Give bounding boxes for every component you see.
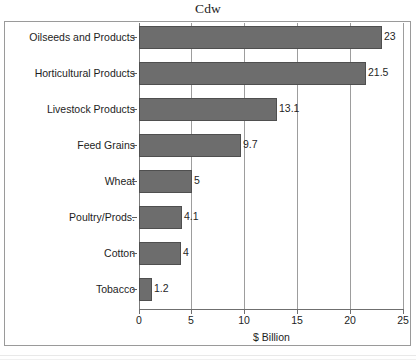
category-label-livestock-products: Livestock Products: [47, 103, 135, 115]
x-tick-label-15: 15: [282, 314, 312, 326]
category-tick-2: [132, 109, 137, 110]
bar-livestock-products[interactable]: [139, 98, 277, 121]
bar-value-label: 1.2: [154, 282, 169, 294]
bar-value-label: 9.7: [243, 138, 258, 150]
category-label-horticultural-products: Horticultural Products: [35, 67, 135, 79]
bar-oilseeds-and-products[interactable]: [139, 26, 382, 49]
category-tick-7: [132, 289, 137, 290]
category-label-feed-grains: Feed Grains: [77, 139, 135, 151]
bar-poultry-prods[interactable]: [139, 206, 182, 229]
bar-value-label: 23: [384, 30, 396, 42]
category-tick-5: [132, 217, 137, 218]
bar-feed-grains[interactable]: [139, 134, 241, 157]
bar-cotton[interactable]: [139, 242, 181, 265]
category-label-oilseeds-and-products: Oilseeds and Products: [29, 31, 135, 43]
chart-title: Cdw: [0, 1, 416, 17]
scan-artifact: [0, 355, 416, 356]
category-tick-4: [132, 181, 137, 182]
x-tick-label-10: 10: [229, 314, 259, 326]
bar-value-label: 4.1: [184, 210, 199, 222]
category-tick-1: [132, 73, 137, 74]
x-tick-label-5: 5: [176, 314, 206, 326]
bar-horticultural-products[interactable]: [139, 62, 366, 85]
bar-value-label: 13.1: [279, 102, 299, 114]
category-label-tobacco: Tobacco: [96, 283, 135, 295]
scan-artifact: [0, 359, 416, 360]
x-tick-label-20: 20: [335, 314, 365, 326]
bar-value-label: 21.5: [368, 66, 388, 78]
category-label-poultry-prods: Poultry/Prods.: [69, 211, 135, 223]
bar-tobacco[interactable]: [139, 278, 152, 301]
x-tick-label-0: 0: [124, 314, 154, 326]
bar-value-label: 4: [183, 246, 189, 258]
category-tick-6: [132, 253, 137, 254]
bar-chart: Cdw Oilseeds and Products Horticultural …: [0, 0, 416, 363]
plot-area: 23 21.5 13.1 9.7 5 4.1 4 1.2: [139, 23, 403, 310]
x-axis-line: [139, 309, 404, 310]
x-tick-label-25: 25: [388, 314, 416, 326]
category-label-wheat: Wheat: [105, 175, 135, 187]
category-tick-0: [132, 37, 137, 38]
bar-wheat[interactable]: [139, 170, 192, 193]
gridline-25: [403, 23, 404, 310]
category-tick-3: [132, 145, 137, 146]
x-axis-title: $ Billion: [139, 331, 404, 343]
bar-value-label: 5: [194, 174, 200, 186]
category-label-cotton: Cotton: [104, 247, 135, 259]
